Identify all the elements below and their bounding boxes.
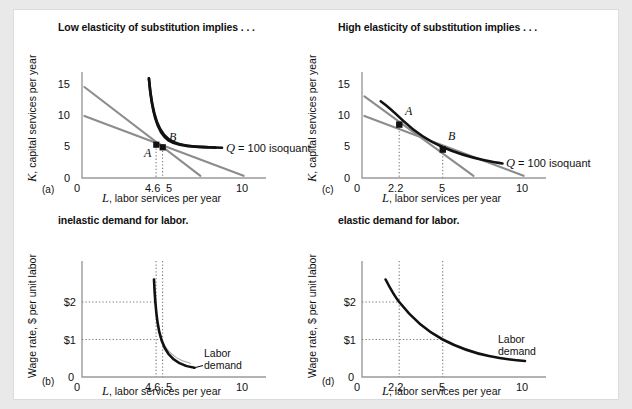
panel-a-label-b: B xyxy=(169,130,177,144)
panel-a-letter: (a) xyxy=(42,184,54,195)
panel-d-xtick-0: 0 xyxy=(354,381,360,393)
panel-b-reference-curve xyxy=(156,302,192,364)
panel-c-xaxis-title: L, labor services per year xyxy=(381,191,502,205)
panel-a-title: Low elasticity of substitution implies .… xyxy=(58,21,255,33)
panel-b-letter: (b) xyxy=(42,376,54,387)
panel-c-plot: A B Q = 100 isoquant 0 2.2 5 10 0 5 10 1… xyxy=(316,10,618,206)
panel-c-yaxis-title: K, capital services per year xyxy=(305,54,319,183)
panel-a: Low elasticity of substitution implies .… xyxy=(14,10,316,206)
panel-c-letter: (c) xyxy=(322,184,334,195)
figure-frame: Low elasticity of substitution implies .… xyxy=(14,10,618,399)
panel-a-xtick-0: 0 xyxy=(74,182,80,194)
panel-a-xaxis-title: L, labor services per year xyxy=(101,191,222,205)
panel-b-demand-curve xyxy=(154,280,195,368)
panel-a-markers xyxy=(153,142,166,151)
panel-d-curve-label-line1: Labor xyxy=(498,333,525,345)
panel-a-isoquant-label: Q = 100 isoquant xyxy=(226,141,311,155)
panel-b-xaxis-title: L, labor services per year xyxy=(101,384,222,398)
panel-d-guides xyxy=(362,261,443,377)
panel-c: High elasticity of substitution implies … xyxy=(316,10,618,206)
panel-d-letter: (d) xyxy=(322,376,334,387)
panel-a-ytick-0: 0 xyxy=(64,172,70,184)
panel-d-yaxis-title: Wage rate, $ per unit labor xyxy=(306,254,318,378)
panel-c-title: High elasticity of substitution implies … xyxy=(338,21,537,33)
panel-d-curve-label-line2: demand xyxy=(498,345,536,357)
panel-b-curve-label-line2: demand xyxy=(204,359,242,371)
panel-d-xtick-3: 10 xyxy=(516,381,528,393)
panel-b-plot: Labor demand 0 4.6 5 10 0 $1 $2 L, labor… xyxy=(14,206,316,399)
panel-d-ytick-1: $1 xyxy=(344,334,356,346)
panel-c-ytick-2: 10 xyxy=(338,109,350,121)
panel-c-xtick-3: 10 xyxy=(516,182,528,194)
panel-c-xtick-0: 0 xyxy=(354,182,360,194)
panel-a-ytick-3: 15 xyxy=(58,78,70,90)
panel-a-ytick-1: 5 xyxy=(64,140,70,152)
panel-a-ytick-2: 10 xyxy=(58,109,70,121)
panel-c-label-b: B xyxy=(448,129,456,143)
panel-a-xtick-3: 10 xyxy=(236,182,248,194)
panel-b-xtick-3: 10 xyxy=(236,381,248,393)
panel-c-isoquant-label: Q = 100 isoquant xyxy=(506,156,591,170)
panel-a-yaxis-title: K, capital services per year xyxy=(25,54,39,183)
panel-b: inelastic demand for labor. (b) xyxy=(14,206,316,399)
panel-b-title: inelastic demand for labor. xyxy=(58,214,188,226)
panel-c-ytick-0: 0 xyxy=(344,172,350,184)
panel-b-label-leader xyxy=(195,366,204,368)
panel-a-isoquant xyxy=(149,78,222,148)
panel-c-ytick-3: 15 xyxy=(338,78,350,90)
panel-a-plot: A B Q = 100 isoquant 0 4.6 5 10 0 5 10 1… xyxy=(14,10,316,206)
panel-a-isocost-lines xyxy=(84,87,243,176)
panel-d-plot: Labor demand 0 2.2 5 10 0 $1 $2 L, labor… xyxy=(316,206,618,399)
panel-b-ytick-2: $2 xyxy=(64,296,76,308)
panel-b-xtick-0: 0 xyxy=(74,381,80,393)
panel-b-ytick-0: 0 xyxy=(68,371,74,383)
panel-b-yaxis-title: Wage rate, $ per unit labor xyxy=(26,254,38,378)
panel-d-xaxis-title: L, labor services per year xyxy=(381,384,502,398)
panel-b-curve-label-line1: Labor xyxy=(204,347,231,359)
panel-d-title: elastic demand for labor. xyxy=(338,214,459,226)
panel-a-label-a: A xyxy=(143,146,152,160)
panel-d-ytick-2: $2 xyxy=(344,296,356,308)
panel-c-ytick-1: 5 xyxy=(344,140,350,152)
panel-c-label-a: A xyxy=(404,104,413,118)
panel-d-ytick-0: 0 xyxy=(348,371,354,383)
panel-b-guides xyxy=(82,261,163,377)
panel-d: elastic demand for labor. (d) Labor dema… xyxy=(316,206,618,399)
panel-b-ytick-1: $1 xyxy=(64,334,76,346)
